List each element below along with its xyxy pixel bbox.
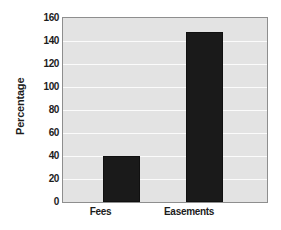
bar-chart: Percentage 160 140 120 100 80 60 40 20 0… xyxy=(0,0,281,230)
y-tick-label: 80 xyxy=(35,105,59,115)
bar xyxy=(103,156,140,202)
gridline xyxy=(63,41,267,42)
y-axis-title: Percentage xyxy=(14,121,26,135)
y-tick-label: 120 xyxy=(35,59,59,69)
x-tick-label: Fees xyxy=(81,206,120,217)
y-tick-label: 0 xyxy=(35,197,59,207)
y-tick-label: 140 xyxy=(35,36,59,46)
gridline xyxy=(63,87,267,88)
gridline xyxy=(63,110,267,111)
gridline xyxy=(63,202,267,203)
bar xyxy=(186,32,223,202)
plot-area xyxy=(62,17,268,203)
y-tick-label: 20 xyxy=(35,174,59,184)
gridline xyxy=(63,179,267,180)
y-tick-label: 160 xyxy=(35,13,59,23)
x-tick-label: Easements xyxy=(164,206,203,217)
gridline xyxy=(63,156,267,157)
y-tick-label: 40 xyxy=(35,151,59,161)
gridline xyxy=(63,64,267,65)
y-tick-label: 100 xyxy=(35,82,59,92)
gridline xyxy=(63,133,267,134)
y-tick-label: 60 xyxy=(35,128,59,138)
